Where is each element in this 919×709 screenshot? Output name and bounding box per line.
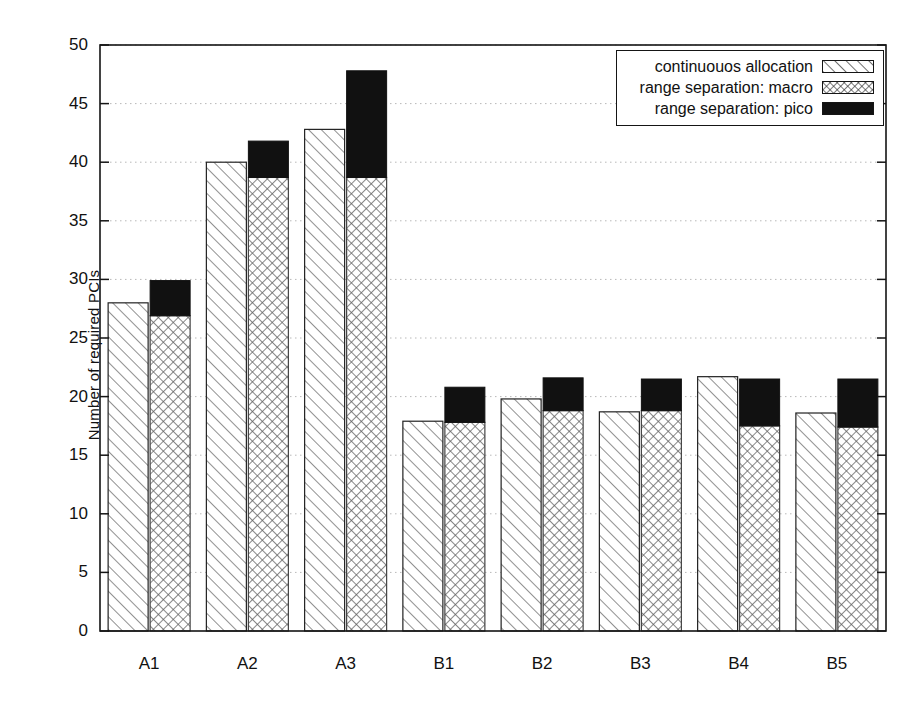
legend-label: continuouos allocation [655, 58, 813, 76]
legend-item-3: range separation: pico [626, 98, 874, 119]
bar-continuous-B3 [599, 412, 639, 631]
y-tick-25: 25 [54, 328, 88, 348]
bar-pico-B4 [740, 379, 780, 426]
bar-macro-A3 [347, 177, 387, 631]
bar-continuous-A2 [206, 162, 246, 631]
bar-continuous-A1 [108, 303, 148, 631]
bar-pico-A1 [150, 281, 190, 316]
bar-pico-B1 [445, 387, 485, 422]
bar-macro-B1 [445, 422, 485, 631]
bar-pico-A3 [347, 71, 387, 178]
x-tick-B4: B4 [728, 654, 749, 674]
diagonal-hatch-swatch [822, 60, 874, 73]
bar-continuous-B4 [698, 377, 738, 631]
legend-label: range separation: pico [655, 100, 813, 118]
bar-macro-A1 [150, 316, 190, 631]
x-tick-B5: B5 [826, 654, 847, 674]
bar-continuous-B5 [796, 413, 836, 631]
y-tick-20: 20 [54, 387, 88, 407]
x-tick-B3: B3 [630, 654, 651, 674]
bar-macro-A2 [248, 177, 288, 631]
bar-chart: Number of required PCIs 0510152025303540… [0, 0, 919, 709]
bar-pico-B3 [641, 379, 681, 411]
legend-item-1: continuouos allocation [626, 56, 874, 77]
bar-macro-B2 [543, 411, 583, 631]
y-tick-30: 30 [54, 269, 88, 289]
legend-label: range separation: macro [640, 79, 813, 97]
bar-continuous-B1 [403, 421, 443, 631]
crosshatch-swatch [822, 81, 874, 94]
y-tick-15: 15 [54, 445, 88, 465]
bar-pico-B5 [838, 379, 878, 427]
y-tick-0: 0 [54, 621, 88, 641]
bars-layer [108, 71, 878, 631]
y-tick-10: 10 [54, 504, 88, 524]
y-tick-50: 50 [54, 35, 88, 55]
x-tick-B1: B1 [433, 654, 454, 674]
x-tick-A3: A3 [335, 654, 356, 674]
solid-black-swatch [822, 102, 874, 115]
y-axis-title: Number of required PCIs [85, 269, 102, 440]
y-tick-40: 40 [54, 152, 88, 172]
legend: continuouos allocationrange separation: … [616, 50, 884, 126]
bar-continuous-B2 [501, 399, 541, 631]
bar-macro-B5 [838, 427, 878, 631]
legend-item-2: range separation: macro [626, 77, 874, 98]
y-tick-5: 5 [54, 562, 88, 582]
y-tick-45: 45 [54, 94, 88, 114]
y-tick-35: 35 [54, 211, 88, 231]
bar-macro-B3 [641, 411, 681, 631]
bar-macro-B4 [740, 426, 780, 631]
bar-continuous-A3 [305, 129, 345, 631]
x-tick-A2: A2 [237, 654, 258, 674]
x-tick-B2: B2 [532, 654, 553, 674]
bar-pico-B2 [543, 378, 583, 411]
x-tick-A1: A1 [139, 654, 160, 674]
bar-pico-A2 [248, 141, 288, 177]
